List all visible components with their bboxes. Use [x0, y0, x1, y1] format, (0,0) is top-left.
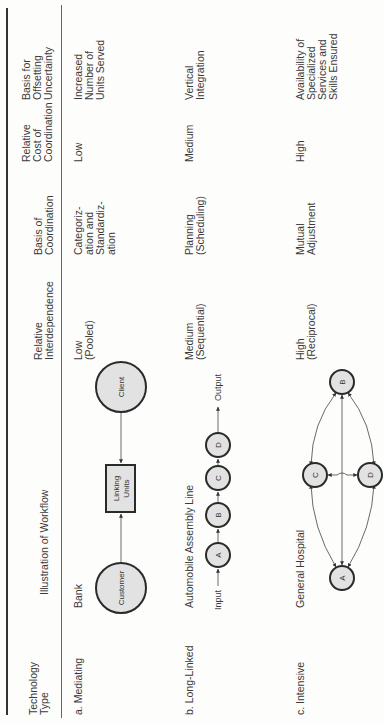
svg-text:B: B: [214, 512, 223, 517]
input-label: Input: [213, 589, 223, 610]
svg-text:A: A: [338, 575, 347, 581]
rotated-table-page: Technology Type Illustration of Workflow…: [0, 0, 384, 723]
node-d: D: [358, 463, 382, 487]
intensive-diagram: A B C D: [303, 370, 382, 590]
node-b: B: [330, 370, 354, 394]
workflow-diagrams: Customer Linking Units Client Input Outp…: [0, 0, 384, 723]
svg-text:C: C: [214, 475, 223, 481]
client-node: Client: [96, 362, 146, 412]
svg-text:Client: Client: [117, 376, 126, 397]
long-linked-diagram: Input Output A B C D: [206, 373, 230, 610]
customer-node: Customer: [96, 563, 146, 613]
svg-text:C: C: [311, 472, 320, 478]
node-c: C: [206, 466, 230, 490]
svg-text:Units: Units: [122, 479, 131, 497]
node-c: C: [303, 463, 327, 487]
node-d: D: [206, 433, 230, 457]
svg-text:D: D: [366, 472, 375, 478]
node-a: A: [330, 566, 354, 590]
output-label: Output: [213, 373, 223, 401]
mediating-diagram: Customer Linking Units Client: [96, 362, 146, 613]
svg-text:Customer: Customer: [117, 570, 126, 605]
svg-text:D: D: [214, 442, 223, 448]
svg-text:B: B: [338, 379, 347, 384]
svg-text:Linking: Linking: [112, 476, 121, 501]
node-b: B: [206, 503, 230, 527]
linking-units-node: Linking Units: [106, 465, 135, 512]
svg-text:A: A: [214, 552, 223, 558]
node-a: A: [206, 543, 230, 567]
